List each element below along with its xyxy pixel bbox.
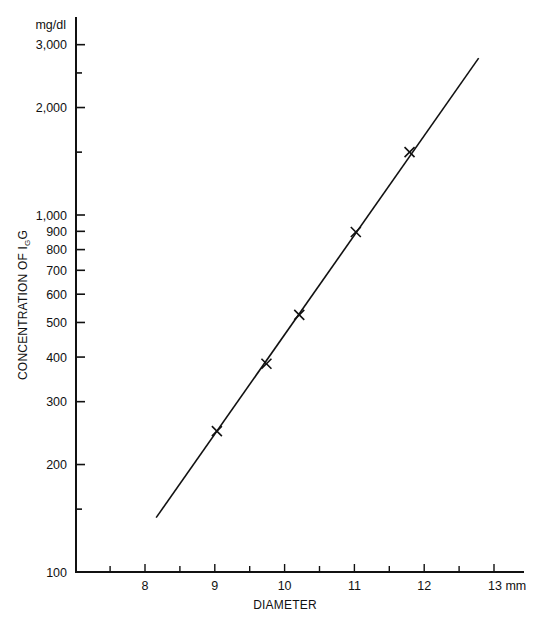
- y-axis-unit: mg/dl: [35, 18, 66, 32]
- y-tick-label: 3,000: [36, 38, 67, 52]
- plot-series: [156, 58, 478, 517]
- y-tick-label: 500: [46, 316, 67, 330]
- y-axis-title-prefix: CONCENTRATION OF I: [16, 246, 30, 380]
- y-tick-label: 2,000: [36, 101, 67, 115]
- y-tick-label: 900: [46, 225, 67, 239]
- x-tick-label: 13 mm: [488, 579, 526, 593]
- y-tick-label: 600: [46, 288, 67, 302]
- y-tick-label: 700: [46, 264, 67, 278]
- y-axis-title: CONCENTRATION OF IGG: [16, 230, 32, 380]
- x-tick-label: 8: [142, 579, 149, 593]
- y-tick-label: 800: [46, 243, 67, 257]
- fit-line: [156, 58, 478, 517]
- y-tick-label: 300: [46, 395, 67, 409]
- x-axis-title: DIAMETER: [253, 598, 317, 612]
- y-tick-label: 200: [46, 458, 67, 472]
- y-tick-label: 1,000: [36, 209, 67, 223]
- x-axis-ticks: 8910111213 mm: [110, 564, 526, 593]
- x-tick-label: 12: [417, 579, 431, 593]
- y-tick-label: 400: [46, 351, 67, 365]
- chart: 1002003004005006007008009001,0002,0003,0…: [0, 0, 539, 625]
- y-axis-title-suffix: G: [16, 230, 30, 240]
- x-tick-label: 11: [348, 579, 361, 593]
- x-tick-label: 9: [211, 579, 218, 593]
- x-tick-label: 10: [278, 579, 292, 593]
- y-axis-ticks: 1002003004005006007008009001,0002,0003,0…: [36, 38, 85, 579]
- y-tick-label: 100: [46, 566, 67, 580]
- axes: [75, 17, 524, 573]
